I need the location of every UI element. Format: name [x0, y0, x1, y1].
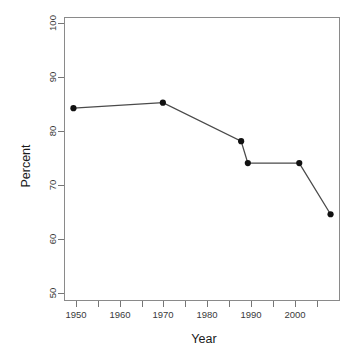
x-tick-label-1960: 1960 [109, 309, 130, 320]
x-tick-label-1970: 1970 [152, 309, 173, 320]
x-axis-title: Year [191, 332, 216, 346]
data-point [70, 105, 76, 111]
data-point [296, 160, 302, 166]
x-tick-label-1950: 1950 [65, 309, 86, 320]
chart-background [0, 0, 357, 358]
data-point [245, 160, 251, 166]
y-tick-label-60: 60 [47, 234, 58, 245]
x-tick-label-1990: 1990 [240, 309, 261, 320]
data-point [160, 100, 166, 106]
y-tick-label-80: 80 [47, 126, 58, 137]
data-point [238, 138, 244, 144]
y-tick-label-50: 50 [47, 288, 58, 299]
data-point [327, 211, 333, 217]
percent-vs-year-line-chart: 50 60 70 80 90 100 Percent [0, 0, 357, 358]
y-axis-title: Percent [19, 144, 33, 188]
y-tick-label-100: 100 [47, 15, 58, 31]
chart-figure: 50 60 70 80 90 100 Percent [0, 0, 357, 358]
x-tick-label-1980: 1980 [196, 309, 217, 320]
y-tick-label-70: 70 [47, 180, 58, 191]
x-tick-label-2000: 2000 [284, 309, 305, 320]
y-tick-label-90: 90 [47, 72, 58, 83]
